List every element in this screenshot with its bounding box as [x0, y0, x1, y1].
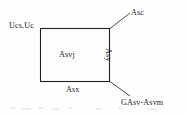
figure-canvas: Ucs,Uc Asc Asvj Asy Asx GAsv-Asvm — [0, 0, 187, 115]
label-asc: Asc — [131, 9, 144, 17]
label-gasv-asvm: GAsv-Asvm — [121, 99, 163, 107]
main-rectangle — [41, 29, 110, 82]
label-asvj: Asvj — [59, 51, 75, 59]
label-ucs-uc: Ucs,Uc — [9, 22, 34, 30]
label-asx: Asx — [66, 86, 80, 94]
asc-leader-line — [110, 13, 130, 29]
gasv-asvm-leader-line — [110, 82, 130, 97]
label-asy: Asy — [104, 48, 112, 62]
